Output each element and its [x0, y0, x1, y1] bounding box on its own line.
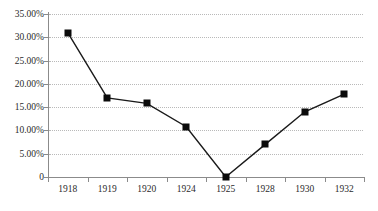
y-tick-label: 25.00%	[0, 56, 44, 66]
x-tick-mark	[246, 177, 247, 182]
data-point-marker	[341, 91, 348, 98]
x-tick-mark	[48, 177, 49, 182]
plot-area	[49, 14, 363, 177]
gridline	[49, 37, 363, 38]
gridline	[49, 61, 363, 62]
data-point-marker	[262, 141, 269, 148]
x-tick-label: 1928	[256, 184, 275, 195]
gridline	[49, 84, 363, 85]
data-point-marker	[104, 94, 111, 101]
gridline	[49, 107, 363, 108]
gridline	[49, 154, 363, 155]
x-tick-label: 1924	[177, 184, 196, 195]
x-tick-mark	[285, 177, 286, 182]
y-tick-label: 30.00%	[0, 32, 44, 42]
y-tick-mark	[44, 61, 48, 62]
x-tick-mark	[325, 177, 326, 182]
y-tick-mark	[44, 84, 48, 85]
x-tick-mark	[364, 177, 365, 182]
y-tick-label: 35.00%	[0, 9, 44, 19]
x-tick-mark	[167, 177, 168, 182]
y-tick-mark	[44, 14, 48, 15]
y-tick-mark	[44, 107, 48, 108]
y-axis-line	[48, 12, 49, 179]
x-tick-label: 1930	[295, 184, 314, 195]
y-tick-label: 5.00%	[0, 149, 44, 159]
y-tick-label: 20.00%	[0, 79, 44, 89]
y-tick-mark	[44, 130, 48, 131]
x-tick-mark	[88, 177, 89, 182]
y-tick-label: 10.00%	[0, 125, 44, 135]
x-tick-label: 1932	[335, 184, 354, 195]
x-tick-label: 1918	[58, 184, 77, 195]
data-point-marker	[301, 108, 308, 115]
line-chart: 35.00% 30.00% 25.00% 20.00% 15.00% 10.00…	[0, 0, 378, 211]
x-tick-label: 1919	[98, 184, 117, 195]
data-point-marker	[143, 100, 150, 107]
x-tick-label: 1925	[216, 184, 235, 195]
y-tick-label: 0	[0, 172, 44, 182]
data-point-marker	[183, 123, 190, 130]
y-tick-mark	[44, 154, 48, 155]
x-tick-mark	[206, 177, 207, 182]
y-tick-label: 15.00%	[0, 102, 44, 112]
gridline	[49, 14, 363, 15]
x-tick-label: 1920	[137, 184, 156, 195]
x-tick-mark	[127, 177, 128, 182]
gridline	[49, 130, 363, 131]
y-tick-mark	[44, 37, 48, 38]
data-point-marker	[64, 29, 71, 36]
data-point-marker	[222, 174, 229, 181]
